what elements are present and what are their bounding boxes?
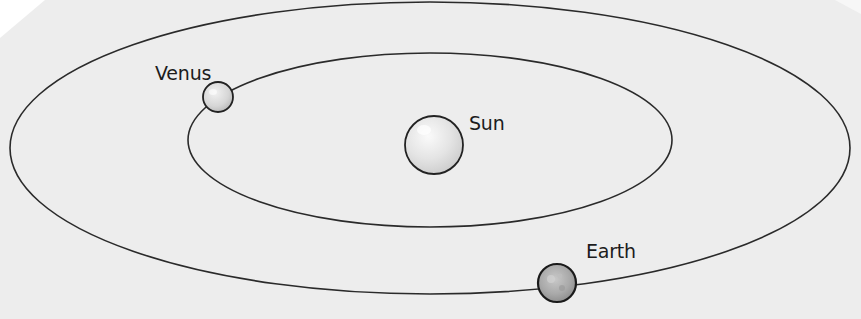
- earth-label: Earth: [586, 240, 636, 262]
- venus-label: Venus: [155, 62, 211, 84]
- sun-label: Sun: [469, 112, 505, 134]
- diagram-canvas: [0, 0, 861, 319]
- solar-system-diagram: Venus Sun Earth: [0, 0, 861, 319]
- earth-icon: [538, 264, 576, 302]
- venus-icon: [203, 82, 233, 112]
- sun-icon: [405, 116, 463, 174]
